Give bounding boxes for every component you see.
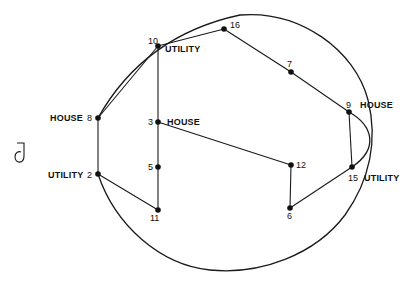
node-11: [155, 207, 161, 213]
label-7: 7: [287, 59, 292, 69]
label-9: 9: [346, 100, 351, 110]
edge-7-9: [291, 72, 349, 112]
label-16: 16: [230, 20, 240, 30]
label-15: 15: [348, 173, 358, 183]
nodes: [95, 26, 355, 213]
graph-diagram: 16 10 UTILITY 7 HOUSE 8 9 HOUSE 3 HOUSE …: [0, 0, 414, 290]
tag-3-house: HOUSE: [167, 117, 200, 127]
node-8: [95, 115, 101, 121]
label-6: 6: [287, 211, 292, 221]
label-5: 5: [148, 162, 153, 172]
node-5: [155, 164, 161, 170]
curve-9-15: [349, 112, 370, 167]
label-8: 8: [87, 113, 92, 123]
edges: [98, 29, 352, 210]
edge-16-7: [224, 29, 291, 72]
edge-6-12: [290, 165, 291, 208]
tag-8-house: HOUSE: [50, 113, 83, 123]
node-12: [288, 162, 294, 168]
edge-11-2: [98, 174, 158, 210]
label-12: 12: [296, 160, 306, 170]
tag-9-house: HOUSE: [360, 100, 393, 110]
label-2: 2: [87, 170, 92, 180]
tag-10-utility: UTILITY: [165, 44, 200, 54]
node-9: [346, 109, 352, 115]
node-3: [155, 119, 161, 125]
outer-loop-curve: [98, 15, 372, 271]
side-mark: [15, 143, 24, 162]
node-7: [288, 69, 294, 75]
label-3: 3: [148, 117, 153, 127]
node-2: [95, 171, 101, 177]
node-6: [287, 205, 293, 211]
edge-12-3: [158, 122, 291, 165]
tag-2-utility: UTILITY: [48, 170, 83, 180]
node-15: [349, 164, 355, 170]
node-16: [221, 26, 227, 32]
label-11: 11: [150, 213, 159, 223]
tag-15-utility: UTILITY: [364, 173, 399, 183]
label-10: 10: [148, 36, 158, 46]
edge-9-15: [349, 112, 352, 167]
edge-8-10: [98, 46, 158, 118]
labels: 16 10 UTILITY 7 HOUSE 8 9 HOUSE 3 HOUSE …: [48, 20, 399, 223]
edge-15-6: [290, 167, 352, 208]
